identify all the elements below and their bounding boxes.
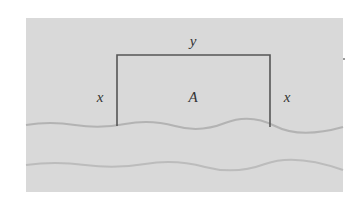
river-far-bank-line: [26, 160, 343, 171]
label-x-left: x: [97, 89, 104, 106]
diagram-graphics: [0, 0, 360, 199]
speck: [343, 58, 345, 60]
label-y: y: [190, 33, 197, 50]
label-x-right: x: [284, 89, 291, 106]
river-bank-line: [26, 119, 343, 133]
label-area: A: [188, 89, 197, 106]
